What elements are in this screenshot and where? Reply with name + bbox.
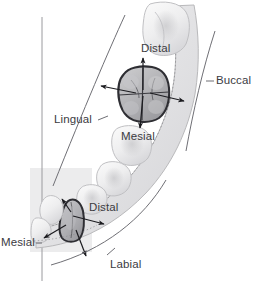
label-buccal: Buccal xyxy=(216,75,251,87)
lingual-arc xyxy=(53,15,125,186)
cusp-highlight xyxy=(123,75,139,89)
label-lingual: Lingual xyxy=(54,114,92,126)
figure-container: Buccal Lingual Labial Distal Mesial Dist… xyxy=(0,0,266,286)
label-distal-molar: Distal xyxy=(141,43,170,55)
dental-arch-diagram xyxy=(0,0,266,286)
cusp-highlight xyxy=(148,76,164,90)
cusp-highlight xyxy=(148,100,164,114)
label-mesial-molar: Mesial xyxy=(121,131,155,143)
cusp-highlight xyxy=(123,101,139,115)
label-distal-incisor: Distal xyxy=(89,202,118,214)
labial-leader-line xyxy=(107,248,115,255)
label-labial: Labial xyxy=(110,259,141,271)
tooth-shading xyxy=(104,167,124,189)
lingual-leader-line xyxy=(98,116,108,120)
label-mesial-incisor: Mesial xyxy=(1,237,35,249)
highlighted-molar xyxy=(118,66,169,122)
